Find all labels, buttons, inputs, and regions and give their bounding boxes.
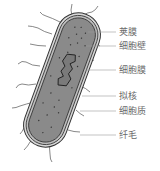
label-nucleoid: 拟核 <box>119 91 137 101</box>
label-cell-wall: 细胞壁 <box>119 41 146 51</box>
label-cytoplasm: 细胞质 <box>119 106 146 116</box>
cell-body <box>17 7 106 154</box>
label-cell-membrane: 细胞膜 <box>119 65 146 75</box>
label-pili: 纤毛 <box>119 130 137 140</box>
label-capsule: 荚膜 <box>119 27 137 37</box>
bacterium-diagram <box>0 0 160 171</box>
